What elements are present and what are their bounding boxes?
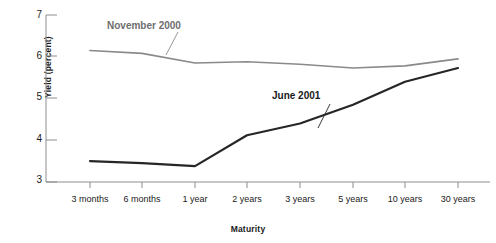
annotation-leader-november-2000 (166, 32, 178, 55)
series-annotation-june-2001: June 2001 (272, 90, 320, 101)
chart-plot-area (0, 0, 496, 243)
series-line-june-2001 (90, 68, 458, 166)
series-annotation-november-2000: November 2000 (107, 20, 181, 31)
yield-curve-chart: Yield (percent) Maturity 7 6 5 4 3 3 mon… (0, 0, 496, 243)
series-line-november-2000 (90, 50, 458, 68)
